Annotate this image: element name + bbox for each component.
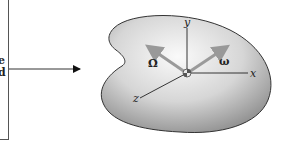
z-axis-label: z — [132, 92, 139, 105]
y-axis-label: y — [183, 16, 191, 29]
omega-label: ω — [219, 55, 230, 68]
rigid-body-diagram: y x z Ω ω — [0, 0, 288, 145]
x-axis-label: x — [250, 67, 257, 80]
Omega-label: Ω — [148, 57, 158, 70]
